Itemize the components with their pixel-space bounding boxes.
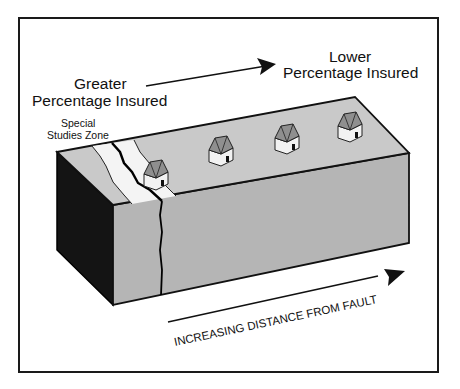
- label-zone-line1: Special: [61, 117, 95, 129]
- label-lower-line2: Percentage Insured: [283, 64, 418, 81]
- label-greater-line1: Greater: [74, 75, 127, 92]
- diagram-canvas: Greater Percentage Insured Lower Percent…: [0, 0, 460, 389]
- label-greater-line2: Percentage Insured: [32, 92, 167, 109]
- label-lower-line1: Lower: [329, 48, 371, 65]
- label-zone-line2: Studies Zone: [47, 129, 109, 141]
